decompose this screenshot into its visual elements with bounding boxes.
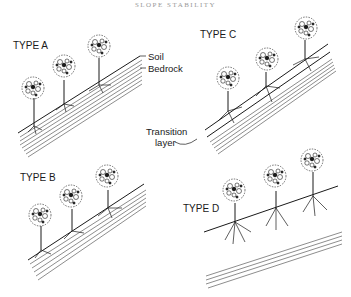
panel-type-d — [204, 149, 342, 288]
panel-type-c — [175, 17, 336, 154]
slope-diagram — [0, 0, 351, 297]
panel-type-a — [18, 35, 146, 157]
panel-type-b — [28, 165, 146, 280]
